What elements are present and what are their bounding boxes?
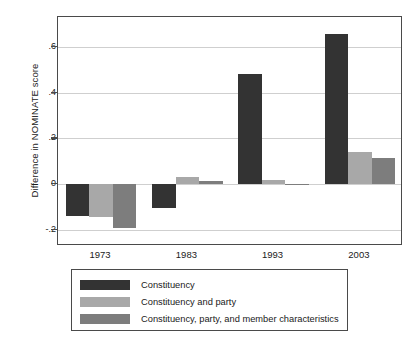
gridline <box>58 138 401 139</box>
bar <box>66 184 90 216</box>
x-axis-tick-label: 1973 <box>70 249 130 260</box>
x-axis-tick-label: 2003 <box>329 249 389 260</box>
bar <box>152 184 176 208</box>
bar <box>348 152 372 184</box>
legend-swatch <box>80 280 130 290</box>
gridline <box>58 230 401 231</box>
legend: ConstituencyConstituency and partyConsti… <box>71 269 348 331</box>
gridline <box>58 93 401 94</box>
bar <box>325 34 349 184</box>
legend-swatch <box>80 297 130 307</box>
bar <box>238 74 262 184</box>
gridline <box>58 47 401 48</box>
bar <box>199 181 223 184</box>
legend-item: Constituency <box>80 279 195 291</box>
legend-label: Constituency, party, and member characte… <box>141 314 339 324</box>
y-axis-title: Difference in NOMINATE score <box>29 21 40 241</box>
legend-label: Constituency <box>141 280 195 290</box>
bar <box>176 177 200 184</box>
legend-label: Constituency and party <box>141 297 236 307</box>
x-axis-tick-label: 1983 <box>156 249 216 260</box>
legend-item: Constituency, party, and member characte… <box>80 313 339 325</box>
plot-area <box>57 16 402 245</box>
bar <box>372 158 396 184</box>
x-axis-tick-label: 1993 <box>243 249 303 260</box>
legend-item: Constituency and party <box>80 296 236 308</box>
bar <box>113 184 137 228</box>
legend-swatch <box>80 314 130 324</box>
bar <box>262 180 286 185</box>
bar <box>89 184 113 217</box>
bar-chart-figure: Difference in NOMINATE score -.20.2.4.6 … <box>0 0 419 345</box>
bar <box>285 184 309 185</box>
